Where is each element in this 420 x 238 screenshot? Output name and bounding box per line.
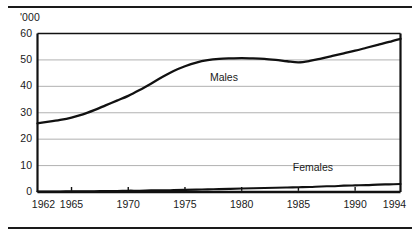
y-tick-label: 10	[8, 159, 32, 171]
x-tick-label: 1975	[173, 198, 196, 210]
x-tick-label: 1965	[60, 198, 83, 210]
series-annotation-females: Females	[293, 161, 333, 173]
y-tick-label: 0	[8, 185, 32, 197]
series-lines-group	[38, 39, 401, 192]
x-tick-label: 1994	[383, 198, 406, 210]
x-tick-label: 1962	[32, 198, 55, 210]
chart-figure: '000 0102030405060 196219651970197519801…	[0, 0, 420, 238]
x-tick-label: 1990	[343, 198, 366, 210]
series-annotation-males: Males	[210, 71, 238, 83]
y-tick-label: 20	[8, 132, 32, 144]
y-tick-label: 30	[8, 106, 32, 118]
x-tick-label: 1970	[117, 198, 140, 210]
y-tick-label: 60	[8, 27, 32, 39]
x-tick-label: 1980	[230, 198, 253, 210]
x-tick-label: 1985	[287, 198, 310, 210]
y-tick-label: 40	[8, 79, 32, 91]
y-tick-label: 50	[8, 53, 32, 65]
series-line-females	[38, 184, 401, 191]
